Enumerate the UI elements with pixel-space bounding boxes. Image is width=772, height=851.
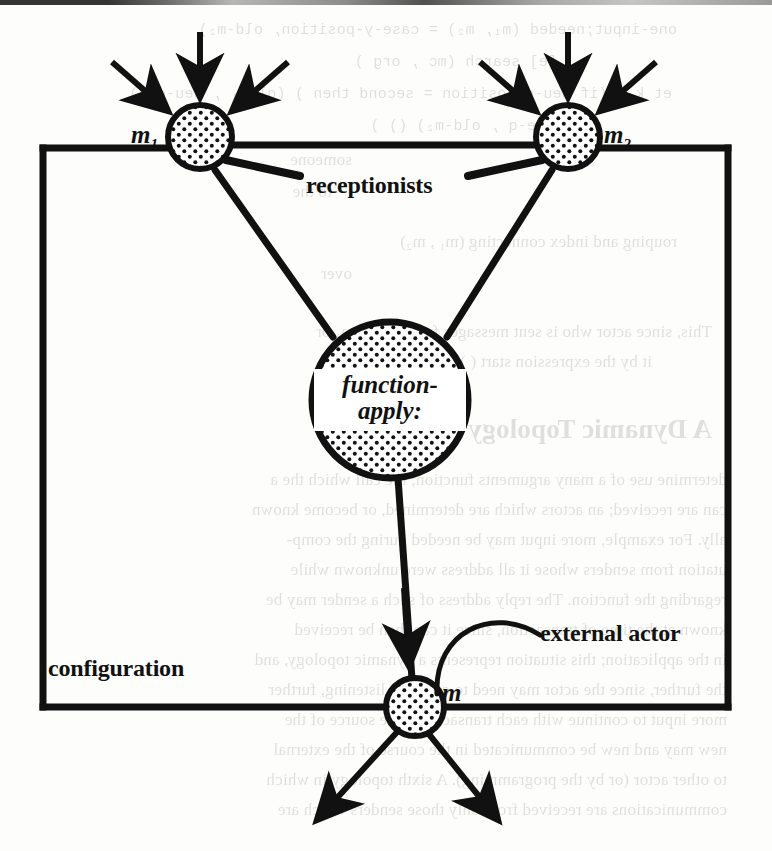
function-apply-line-1: function-	[316, 372, 464, 398]
arrow-into-m2-right	[600, 62, 656, 111]
actor-configuration-diagram: m1 m2 m function- apply: receptionists e…	[0, 0, 772, 851]
arrow-into-m2-left	[480, 62, 536, 111]
node-label-function-apply: function- apply:	[316, 372, 464, 425]
leader-to-m1	[226, 160, 300, 176]
node-label-m1: m1	[131, 121, 158, 153]
node-label-m2: m2	[604, 121, 631, 153]
arrow-out-m-left	[317, 731, 398, 820]
leader-to-m2	[468, 160, 542, 176]
incoming-arrows-m1	[112, 32, 288, 111]
link-m2-fa	[447, 170, 552, 337]
outgoing-arrows-m	[317, 731, 498, 820]
annotation-external-actor: external actor	[540, 620, 680, 647]
incoming-arrows-m2	[480, 32, 656, 111]
scanned-page: one-input;needed (m₁, m₂) = case-y-posit…	[0, 0, 772, 851]
arrow-into-m1-right	[232, 62, 288, 111]
annotation-configuration: configuration	[48, 655, 184, 682]
arrow-into-m1-left	[112, 62, 168, 111]
node-label-m: m	[442, 679, 461, 707]
function-apply-line-2: apply:	[316, 398, 464, 424]
arrow-out-m-right	[428, 733, 498, 820]
annotation-receptionists: receptionists	[306, 172, 432, 199]
